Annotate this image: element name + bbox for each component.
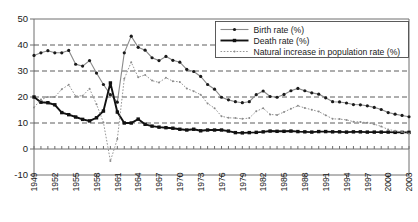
- data-point: [67, 113, 70, 116]
- data-point: [82, 95, 84, 97]
- data-point: [339, 118, 341, 120]
- data-point: [283, 111, 285, 113]
- data-point: [275, 130, 278, 133]
- xtick-label-1997: 1997: [363, 172, 373, 191]
- data-point: [387, 129, 389, 131]
- data-point: [345, 130, 348, 133]
- xtick-label-1991: 1991: [321, 172, 331, 191]
- xtick-label-1952: 1952: [50, 172, 60, 191]
- data-point: [303, 130, 306, 133]
- data-point: [297, 105, 299, 107]
- data-point: [380, 130, 383, 133]
- data-point: [325, 114, 327, 116]
- data-point: [39, 101, 42, 104]
- legend-label-natural: Natural increase in population rate (%): [254, 47, 401, 57]
- xtick-label-1970: 1970: [175, 172, 185, 191]
- data-point: [290, 108, 292, 110]
- data-point: [178, 128, 181, 131]
- data-point: [89, 88, 91, 90]
- ytick-label-30: 30: [17, 65, 28, 76]
- data-point: [373, 106, 376, 109]
- data-point: [81, 118, 84, 121]
- data-point: [394, 113, 397, 116]
- data-point: [75, 95, 77, 97]
- data-point: [151, 80, 153, 82]
- data-point: [123, 78, 125, 80]
- data-point: [172, 80, 174, 82]
- data-point: [234, 117, 236, 119]
- data-point: [255, 110, 257, 112]
- data-point: [269, 95, 272, 98]
- data-point: [158, 81, 160, 83]
- data-point: [165, 77, 167, 79]
- data-point: [221, 115, 223, 117]
- data-point: [241, 131, 244, 134]
- data-point: [61, 88, 63, 90]
- data-point: [123, 121, 126, 124]
- xtick-label-1985: 1985: [279, 172, 289, 191]
- data-point: [171, 59, 174, 62]
- data-point: [179, 81, 181, 83]
- data-point: [241, 101, 244, 104]
- data-point: [206, 83, 209, 86]
- data-point: [123, 51, 126, 54]
- xtick-label-1955: 1955: [71, 172, 81, 191]
- data-point: [366, 130, 369, 133]
- xtick-label-1967: 1967: [154, 172, 164, 191]
- data-point: [303, 89, 306, 92]
- ytick-label-10: 10: [17, 117, 28, 128]
- data-point: [171, 127, 174, 130]
- data-point: [400, 114, 403, 117]
- data-point: [269, 113, 271, 115]
- data-point: [116, 110, 119, 113]
- data-point: [206, 128, 209, 131]
- data-point: [157, 59, 160, 62]
- data-point: [81, 64, 84, 67]
- legend-label-death: Death rate (%): [254, 36, 310, 46]
- data-point: [311, 109, 313, 111]
- data-point: [137, 76, 139, 78]
- data-point: [102, 121, 104, 123]
- data-point: [289, 129, 292, 132]
- data-point: [262, 107, 264, 109]
- data-point: [130, 35, 133, 38]
- data-point: [262, 89, 265, 92]
- data-point: [102, 83, 105, 86]
- data-point: [380, 125, 382, 127]
- data-point: [186, 87, 188, 89]
- data-point: [359, 130, 362, 133]
- data-point: [39, 51, 42, 54]
- data-point: [95, 71, 98, 74]
- ytick-label-50: 50: [17, 13, 28, 24]
- data-point: [227, 129, 230, 132]
- data-point: [130, 61, 132, 63]
- xtick-label-1973: 1973: [196, 172, 206, 191]
- data-point: [359, 103, 362, 106]
- data-point: [318, 111, 320, 113]
- data-point: [401, 131, 403, 133]
- data-point: [60, 111, 63, 114]
- data-point: [227, 98, 230, 101]
- data-point: [408, 132, 410, 134]
- line-chart: -100102030405019491952195519581961196419…: [0, 0, 418, 222]
- ytick-label--10: -10: [14, 169, 28, 180]
- data-point: [352, 130, 355, 133]
- data-point: [352, 121, 354, 123]
- data-point: [150, 56, 153, 59]
- data-point: [53, 103, 56, 106]
- data-point: [199, 129, 202, 132]
- data-point: [54, 96, 56, 98]
- data-point: [32, 54, 35, 57]
- data-point: [213, 88, 216, 91]
- data-point: [88, 119, 91, 122]
- data-point: [255, 131, 258, 134]
- data-point: [310, 130, 313, 133]
- data-point: [394, 130, 396, 132]
- xtick-label-1979: 1979: [238, 172, 248, 191]
- data-point: [317, 130, 320, 133]
- data-point: [193, 90, 195, 92]
- data-point: [324, 130, 327, 133]
- data-point: [282, 93, 285, 96]
- xtick-label-1982: 1982: [258, 172, 268, 191]
- data-point: [386, 130, 389, 133]
